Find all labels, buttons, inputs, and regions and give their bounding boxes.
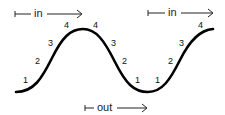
out-label: out <box>97 101 112 113</box>
phase-label: 4 <box>198 20 203 30</box>
in-label: in <box>168 6 177 18</box>
phase-label: 2 <box>168 56 173 66</box>
in-arrow-right: in <box>148 6 213 18</box>
out-arrow: out <box>85 101 147 113</box>
wave-diagram: in in out 1 2 3 4 4 3 2 1 1 2 3 4 <box>0 0 225 115</box>
phase-label: 4 <box>93 20 98 30</box>
phase-label: 3 <box>111 38 116 48</box>
in-arrow-left: in <box>15 7 82 19</box>
phase-label: 4 <box>64 20 69 30</box>
phase-label: 2 <box>122 56 127 66</box>
phase-label: 1 <box>155 75 160 85</box>
phase-label: 2 <box>35 56 40 66</box>
phase-label: 3 <box>179 38 184 48</box>
in-label: in <box>34 7 43 19</box>
phase-label: 3 <box>48 38 53 48</box>
phase-label: 1 <box>23 75 28 85</box>
phase-label: 1 <box>135 75 140 85</box>
